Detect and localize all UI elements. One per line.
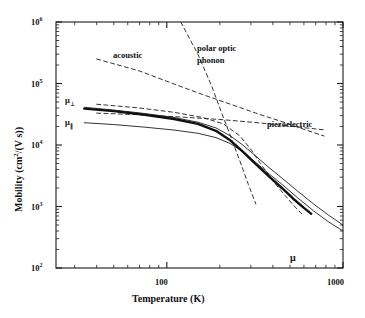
y-tick-label-1e5: 105 [31, 78, 42, 89]
y-tick-exponent: 4 [40, 139, 43, 145]
mu-par-subscript: ∥ [70, 123, 73, 129]
y-tick-exponent: 6 [40, 16, 43, 22]
y-tick-base: 10 [31, 263, 40, 273]
annotation-phonon: phonon [197, 56, 224, 66]
y-tick-exponent: 2 [40, 262, 43, 268]
mu-perp-subscript: ⊥ [70, 101, 75, 107]
annotation-mu-parallel: μ∥ [65, 117, 73, 129]
y-tick-label-1e6: 106 [31, 16, 42, 27]
x-tick-label-1000: 1000 [327, 277, 344, 287]
series-mu-parallel [84, 123, 343, 231]
y-axis-title-exponent: 2 [12, 153, 20, 157]
y-tick-base: 10 [31, 78, 40, 88]
y-tick-base: 10 [31, 17, 40, 27]
y-axis-title: Mobility (cm2/(V s)) [12, 127, 24, 212]
annotation-polar-optic: polar optic [197, 44, 236, 54]
y-axis-title-mid: /(V s)) [13, 127, 24, 153]
y-axis-title-pre: Mobility (cm [13, 157, 24, 212]
annotation-piezoelectric: piezoelectric [267, 120, 312, 130]
annotation-mu-total: μ [290, 252, 296, 263]
y-tick-exponent: 5 [40, 78, 43, 84]
chart-canvas [0, 0, 365, 318]
x-axis-title: Temperature (K) [132, 293, 205, 304]
y-tick-label-1e4: 104 [31, 139, 42, 150]
mobility-vs-temperature-chart: 106 105 104 103 102 100 1000 Temperature… [0, 0, 365, 318]
x-tick-label-100: 100 [155, 277, 168, 287]
annotation-acoustic: acoustic [113, 51, 142, 61]
y-tick-label-1e3: 103 [31, 201, 42, 212]
y-tick-base: 10 [31, 201, 40, 211]
y-tick-base: 10 [31, 140, 40, 150]
y-tick-exponent: 3 [40, 201, 43, 207]
annotation-mu-perpendicular: μ⊥ [65, 95, 75, 107]
y-tick-label-1e2: 102 [31, 262, 42, 273]
